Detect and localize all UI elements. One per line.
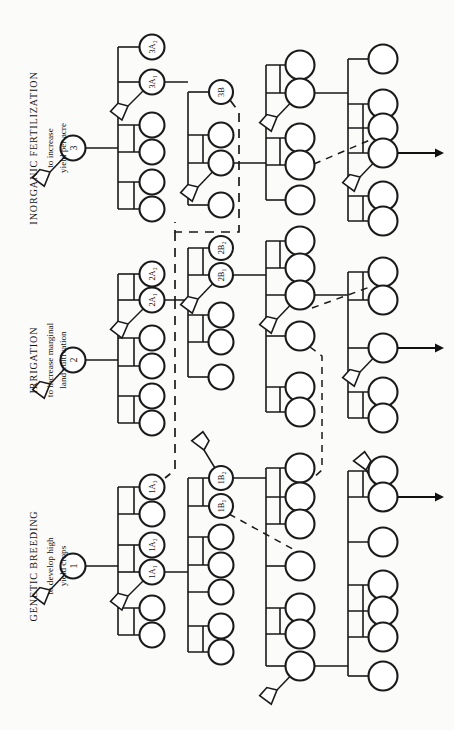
tree-node[interactable]	[140, 170, 165, 195]
tree-node[interactable]	[286, 51, 315, 80]
dashed-link-3mid-diagonal	[314, 140, 370, 164]
link-1-c-trio	[266, 468, 286, 524]
tree-node[interactable]	[140, 596, 165, 621]
tree-node[interactable]	[369, 139, 398, 168]
flag-glyph	[181, 185, 198, 202]
link-3-c-pair1	[266, 65, 286, 93]
tree-node[interactable]	[286, 151, 315, 180]
tree-node-labeled[interactable]: 1B₁	[209, 494, 233, 518]
tree-node[interactable]	[369, 334, 398, 363]
link-1-b-trio	[188, 537, 209, 592]
tree-node-labeled[interactable]: 2A₂	[140, 262, 165, 287]
tree-node[interactable]	[209, 193, 234, 218]
tree-node[interactable]	[209, 123, 234, 148]
tree-node[interactable]	[286, 254, 315, 283]
tree-node[interactable]	[369, 258, 398, 287]
tree-node-labeled[interactable]: 1A₃	[140, 475, 165, 500]
tree-node-labeled[interactable]: 3A₁	[140, 70, 165, 95]
tree-node-label: 3A₁	[148, 75, 157, 88]
tree-node[interactable]	[209, 330, 234, 355]
branch-title: GENETIC BREEDING	[28, 510, 39, 621]
tree-node[interactable]	[286, 510, 315, 539]
label-branch-3: INORGANIC FERTILIZATIONto increaseyield …	[28, 71, 68, 224]
tree-node[interactable]	[140, 384, 165, 409]
tree-node[interactable]	[369, 528, 398, 557]
tree-node[interactable]	[369, 404, 398, 433]
tree-node[interactable]	[369, 623, 398, 652]
tree-node[interactable]	[140, 140, 165, 165]
link-2-spine	[86, 274, 119, 423]
branch-title: INORGANIC FERTILIZATION	[28, 71, 39, 224]
tree-node[interactable]	[140, 197, 165, 222]
tree-node[interactable]	[140, 502, 165, 527]
tree-node-labeled[interactable]: 1A₁	[140, 560, 165, 585]
tree-node[interactable]	[286, 322, 315, 351]
link-2-d-spine	[315, 272, 349, 418]
tree-node-labeled[interactable]: 2A₁	[140, 288, 165, 313]
tree-node-label: 3A₂	[148, 40, 157, 53]
link-2-pair2	[118, 396, 140, 423]
tree-node[interactable]	[209, 553, 234, 578]
tree-node[interactable]	[369, 662, 398, 691]
tree-node[interactable]	[369, 571, 398, 600]
tree-node[interactable]	[286, 227, 315, 256]
link-1-d-trio	[348, 471, 369, 542]
tree-node[interactable]	[286, 552, 315, 581]
tree-node[interactable]	[369, 483, 398, 512]
tree-node[interactable]	[286, 124, 315, 153]
tree-node-labeled[interactable]: 1B₂	[209, 466, 233, 490]
tree-node[interactable]	[209, 365, 234, 390]
tree-node[interactable]	[286, 79, 315, 108]
branch-objective-line-2: yield per acre	[58, 123, 68, 173]
link-2-b-pair	[188, 248, 209, 275]
tree-node[interactable]	[286, 186, 315, 215]
tree-node[interactable]	[286, 454, 315, 483]
tree-node[interactable]	[209, 303, 234, 328]
tree-node[interactable]	[140, 354, 165, 379]
tree-node[interactable]	[286, 483, 315, 512]
tree-node[interactable]	[140, 326, 165, 351]
output-arrow	[398, 344, 444, 353]
link-3-spine	[86, 47, 119, 209]
tree-node[interactable]	[286, 398, 315, 427]
tree-node[interactable]	[286, 594, 315, 623]
tree-node[interactable]	[209, 151, 234, 176]
tree-node[interactable]	[369, 207, 398, 236]
tree-node[interactable]	[140, 113, 165, 138]
tree-node[interactable]	[209, 525, 234, 550]
tree-node[interactable]	[369, 597, 398, 626]
tree-node[interactable]	[369, 457, 398, 486]
tree-node[interactable]	[209, 614, 234, 639]
link-3-b-spine	[165, 82, 189, 205]
tree-node[interactable]	[286, 652, 315, 681]
diagram-canvas: 33A₂3A₁3B22A₂2A₁2B₂2B₁11A₃1A₂1A₁1B₂1B₁ I…	[0, 0, 454, 730]
tree-node-labeled[interactable]: 2B₁	[209, 263, 233, 287]
tree-node-labeled[interactable]: 1A₂	[140, 533, 165, 558]
tree-node-label: 1B₂	[217, 472, 226, 485]
link-1-pair0	[118, 487, 140, 514]
tree-node[interactable]	[369, 45, 398, 74]
label-branch-1: GENETIC BREEDINGto develop highyield cro…	[28, 510, 68, 621]
tree-node[interactable]	[369, 286, 398, 315]
tree-node-labeled[interactable]: 3A₂	[140, 35, 165, 60]
tree-node-label: 3B	[217, 87, 226, 97]
tree-node[interactable]	[209, 580, 234, 605]
tree-node[interactable]	[140, 411, 165, 436]
tree-node-labeled[interactable]: 2B₂	[209, 236, 233, 260]
tree-node[interactable]	[286, 281, 315, 310]
output-arrow	[398, 149, 444, 158]
tree-node[interactable]	[209, 640, 234, 665]
tree-node[interactable]	[369, 378, 398, 407]
arrow-head	[435, 344, 444, 353]
tree-node[interactable]	[286, 620, 315, 649]
link-1-b-spine	[165, 478, 189, 652]
branch-title: IRRIGATION	[28, 327, 39, 394]
branch-objective-line-1: to increase	[45, 128, 55, 168]
tree-node-label: 2A₁	[148, 293, 157, 306]
tree-node-labeled[interactable]: 3B	[209, 80, 233, 104]
link-3-pair2	[118, 182, 140, 209]
plain-node-layer	[140, 45, 398, 691]
tree-node[interactable]	[140, 623, 165, 648]
link-2-c-trio	[266, 241, 286, 295]
flag-glyph	[181, 297, 198, 314]
